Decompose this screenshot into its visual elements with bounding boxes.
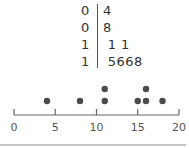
data-dot xyxy=(102,86,108,92)
tick-label: 10 xyxy=(90,121,104,134)
tick-label: 15 xyxy=(131,121,145,134)
data-dot xyxy=(135,98,141,104)
data-dot xyxy=(44,98,50,104)
data-dot xyxy=(77,98,83,104)
dot-plot-points xyxy=(44,86,166,104)
data-dot xyxy=(143,98,149,104)
data-dot xyxy=(102,98,108,104)
number-line-axis: 05101520 xyxy=(11,109,187,134)
tick-label: 20 xyxy=(172,121,186,134)
data-dot xyxy=(159,98,165,104)
data-dot xyxy=(143,86,149,92)
dot-plot: 05101520 xyxy=(0,0,189,148)
tick-label: 5 xyxy=(52,121,59,134)
tick-label: 0 xyxy=(11,121,18,134)
